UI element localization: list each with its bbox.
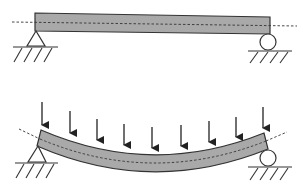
pin-support-icon — [13, 31, 58, 62]
extension-line-right — [266, 132, 287, 141]
unloaded-beam-panel — [12, 13, 297, 63]
distributed-load-arrows — [42, 102, 263, 148]
extension-line-left — [19, 129, 40, 139]
roller-support-icon — [248, 34, 292, 63]
beam-diagram — [0, 0, 303, 186]
beam-straight — [35, 13, 270, 34]
loaded-beam-panel — [15, 102, 292, 180]
